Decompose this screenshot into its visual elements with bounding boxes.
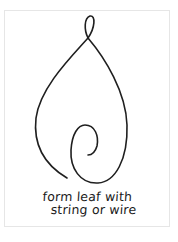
top-loop [85,16,94,38]
leaf-right-edge-and-spiral [71,38,127,183]
leaf-left-edge [36,38,88,178]
caption: form leaf with string or wire [19,190,161,216]
caption-line-2: string or wire [19,203,160,216]
